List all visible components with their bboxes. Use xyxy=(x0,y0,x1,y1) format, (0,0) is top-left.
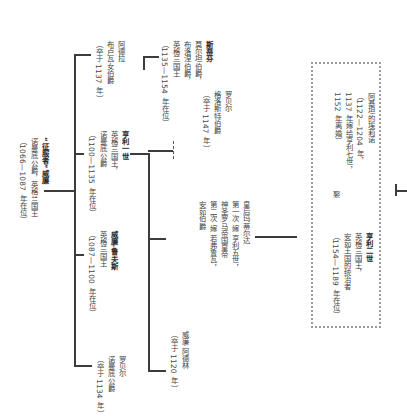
node-henry-2: 亨利二世 英格兰国王， 安茹王国的统治者 （1154—1189 年在位） xyxy=(330,232,374,317)
node-detail-3: 1152 年离婚） xyxy=(332,92,343,172)
node-name: 皇后玛蒂尔达 xyxy=(240,200,251,270)
connector-continuation-h xyxy=(395,190,407,192)
connector-gen3-trunk xyxy=(148,153,150,371)
node-title-2: 诺曼底公爵 xyxy=(97,130,108,215)
node-name: 威廉·阿德林 xyxy=(179,330,190,391)
connector-henry2 xyxy=(255,236,297,238)
node-title-3: 英格兰国王 xyxy=(170,40,181,125)
node-note: （卒于 1120 年） xyxy=(168,330,179,391)
connector-rufus xyxy=(74,254,84,256)
connector-william-adelin xyxy=(148,370,166,372)
connector-adela xyxy=(74,54,91,56)
node-reign: （1135—1154 年在位） xyxy=(159,40,170,125)
connector-henry1 xyxy=(74,153,84,155)
connector-stephen-h xyxy=(143,56,159,58)
node-name: 威廉·鲁夫斯 xyxy=(108,230,119,315)
node-robert-gloucester: 罗贝尔 格洛斯特伯爵 （卒于 1147 年） xyxy=(200,90,233,151)
connector-stephen xyxy=(143,56,145,70)
node-name: 亨利一世 xyxy=(119,130,130,215)
node-name: 阿德拉 xyxy=(115,40,126,101)
connector-matilda xyxy=(148,238,166,240)
marriage-2-detail: 安茹伯爵 xyxy=(196,200,207,270)
node-name: 阿基坦的埃莉诺 xyxy=(365,92,376,172)
spouse-label: 娶 xyxy=(330,190,341,197)
connector-gen1-trunk xyxy=(74,54,76,366)
node-note: （卒于 1137 年） xyxy=(93,40,104,101)
node-william-rufus: 威廉·鲁夫斯 英格兰国王 （1087—1100 年在位） xyxy=(86,230,119,315)
node-title-2: 布洛涅伯爵， xyxy=(181,40,192,125)
node-empress-matilda: 皇后玛蒂尔达 第一次 嫁 亨利五世， 神圣罗马帝国皇帝 第二次 嫁 若弗鲁瓦， … xyxy=(196,200,251,270)
node-adela: 阿德拉 布卢瓦女伯爵 （卒于 1137 年） xyxy=(93,40,126,101)
node-name: “征服者”威廉 xyxy=(39,137,50,222)
node-robert-normandy: 罗贝尔 诺曼底公爵 （卒于 1134 年） xyxy=(94,355,127,416)
connector-root xyxy=(44,190,75,192)
node-reign: （1066—1087 年在位） xyxy=(17,137,28,222)
connector-robert-gloucester-dashed xyxy=(173,141,174,159)
marriage-1: 第一次 嫁 亨利五世， xyxy=(229,200,240,270)
connector-henry1-down xyxy=(130,153,149,155)
node-reign: （1100—1135 年在位） xyxy=(86,130,97,215)
node-title: 格洛斯特伯爵 xyxy=(211,90,222,151)
node-william-adelin: 威廉·阿德林 （卒于 1120 年） xyxy=(168,330,190,391)
node-title: 诺曼底公爵，英格兰国王 xyxy=(28,137,39,222)
node-eleanor-aquitaine: 阿基坦的埃莉诺 （1122—1204 年， 1137 年嫁给亨利七世， 1152… xyxy=(332,92,376,172)
marriage-1-detail: 神圣罗马帝国皇帝 xyxy=(218,200,229,270)
node-name: 罗贝尔 xyxy=(116,355,127,416)
node-name: 亨利二世 xyxy=(363,232,374,317)
node-note: （卒于 1134 年） xyxy=(94,355,105,416)
node-henry-1: 亨利一世 英格兰国王， 诺曼底公爵 （1100—1135 年在位） xyxy=(86,130,130,215)
node-title: 英格兰国王 xyxy=(97,230,108,315)
node-reign: （1154—1189 年在位） xyxy=(330,232,341,317)
node-name: 罗贝尔 xyxy=(222,90,233,151)
node-detail-2: 1137 年嫁给亨利七世， xyxy=(343,92,354,172)
marriage-label: 娶 xyxy=(330,190,341,197)
node-title: 诺曼底公爵 xyxy=(105,355,116,416)
node-title-1: 英格兰国王， xyxy=(108,130,119,215)
marriage-2: 第二次 嫁 若弗鲁瓦， xyxy=(207,200,218,270)
node-title-1: 英格兰国王， xyxy=(352,232,363,317)
connector-robert-gloucester xyxy=(148,150,173,152)
node-note: （卒于 1147 年） xyxy=(200,90,211,151)
node-william-conqueror: “征服者”威廉 诺曼底公爵，英格兰国王 （1066—1087 年在位） xyxy=(17,137,50,222)
node-detail-1: （1122—1204 年， xyxy=(354,92,365,172)
connector-robert-normandy xyxy=(74,365,92,367)
node-reign: （1087—1100 年在位） xyxy=(86,230,97,315)
node-title-2: 安茹王国的统治者 xyxy=(341,232,352,317)
node-title: 布卢瓦女伯爵 xyxy=(104,40,115,101)
